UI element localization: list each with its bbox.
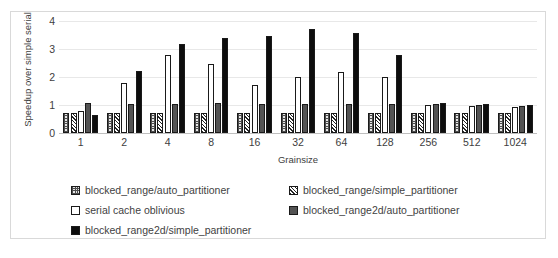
chart-container: Speedup over simple serial 01234 1248163… (10, 11, 546, 239)
y-axis-title: Speedup over simple serial (22, 10, 33, 130)
bar (476, 105, 482, 133)
bar (375, 113, 381, 133)
bar (469, 106, 475, 133)
x-tick-label: 512 (450, 136, 493, 148)
legend-label: blocked_range2d/auto_partitioner (303, 204, 459, 216)
bar (244, 113, 250, 133)
chart-legend: blocked_range/auto_partitionerblocked_ra… (71, 180, 531, 240)
bar (389, 104, 395, 133)
bar (85, 103, 91, 133)
axis-baseline (59, 133, 537, 134)
y-tick-label: 0 (49, 128, 55, 139)
legend-row: serial cache obliviousblocked_range2d/au… (71, 200, 531, 220)
x-tick-label: 256 (407, 136, 450, 148)
bar (418, 113, 424, 133)
bar (295, 77, 301, 133)
bar (331, 113, 337, 133)
bar (382, 77, 388, 133)
bar (425, 105, 431, 133)
legend-item[interactable]: blocked_range/auto_partitioner (71, 184, 289, 196)
bar (266, 36, 272, 133)
bar (433, 104, 439, 133)
y-tick-label: 2 (49, 72, 55, 83)
bar (498, 113, 504, 133)
legend-label: blocked_range/auto_partitioner (85, 184, 230, 196)
legend-swatch-icon (71, 206, 80, 215)
bar (172, 104, 178, 133)
bar-group (363, 21, 406, 133)
bar (222, 38, 228, 133)
bar (505, 113, 511, 133)
legend-item[interactable]: blocked_range2d/simple_partitioner (71, 224, 289, 236)
legend-row: blocked_range/auto_partitionerblocked_ra… (71, 180, 531, 200)
legend-item[interactable]: blocked_range2d/auto_partitioner (289, 204, 459, 216)
bar (107, 113, 113, 133)
bar (288, 113, 294, 133)
bar (157, 113, 163, 133)
legend-label: blocked_range/simple_partitioner (303, 184, 458, 196)
bar (63, 113, 69, 133)
bar (78, 111, 84, 133)
bar (114, 113, 120, 133)
bar (259, 104, 265, 133)
bar (302, 104, 308, 133)
legend-label: blocked_range2d/simple_partitioner (85, 224, 251, 236)
bar (71, 113, 77, 133)
bar (353, 33, 359, 133)
x-axis-tick-labels: 12481632641282565121024 (59, 136, 537, 148)
bar-group (407, 21, 450, 133)
bar (396, 55, 402, 133)
x-tick-label: 128 (363, 136, 406, 148)
bar-group (59, 21, 102, 133)
bar (165, 55, 171, 133)
bar (201, 113, 207, 133)
legend-item[interactable]: serial cache oblivious (71, 204, 289, 216)
bar (346, 104, 352, 133)
bar (483, 104, 489, 133)
legend-swatch-icon (71, 186, 80, 195)
legend-label: serial cache oblivious (85, 204, 185, 216)
bar (208, 64, 214, 133)
bar (281, 113, 287, 133)
bar-group (233, 21, 276, 133)
bar-group (189, 21, 232, 133)
bar (512, 107, 518, 133)
plot-wrapper: Speedup over simple serial 01234 1248163… (11, 12, 547, 152)
bar (519, 106, 525, 133)
legend-swatch-icon (71, 226, 80, 235)
bar (440, 103, 446, 133)
x-tick-label: 64 (320, 136, 363, 148)
bar (462, 113, 468, 133)
bar (179, 44, 185, 133)
bar-group (102, 21, 145, 133)
bar (121, 83, 127, 133)
bar-series-layer (59, 21, 537, 133)
legend-item[interactable]: blocked_range/simple_partitioner (289, 184, 458, 196)
bar (215, 103, 221, 133)
x-tick-label: 2 (102, 136, 145, 148)
bar-group (320, 21, 363, 133)
x-tick-label: 1024 (494, 136, 537, 148)
bar-group (494, 21, 537, 133)
bar (237, 113, 243, 133)
x-axis-title: Grainsize (59, 154, 537, 165)
bar (309, 29, 315, 133)
bar-group (450, 21, 493, 133)
x-tick-label: 16 (233, 136, 276, 148)
bar (324, 113, 330, 133)
x-tick-label: 1 (59, 136, 102, 148)
bar-group (276, 21, 319, 133)
plot-area (59, 21, 537, 133)
bar (252, 85, 258, 133)
bar (150, 113, 156, 133)
bar (411, 113, 417, 133)
bar (136, 71, 142, 133)
x-tick-label: 4 (146, 136, 189, 148)
legend-swatch-icon (289, 186, 298, 195)
legend-row: blocked_range2d/simple_partitioner (71, 220, 531, 240)
bar (454, 113, 460, 133)
y-axis-tick-labels: 01234 (39, 21, 55, 133)
bar (128, 104, 134, 133)
bar (338, 72, 344, 133)
bar (92, 115, 98, 133)
